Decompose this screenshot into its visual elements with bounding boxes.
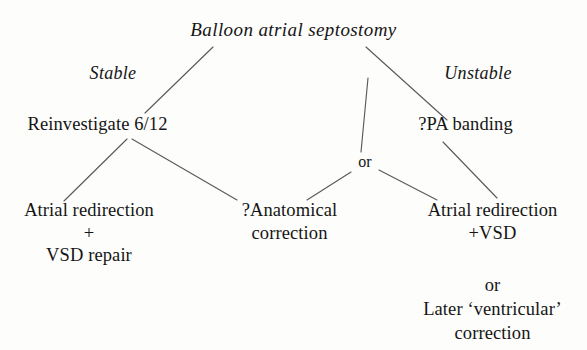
edge-reinvestigate-to-atrial-vsd-repair xyxy=(64,139,127,201)
branch-label-stable: Stable xyxy=(48,63,178,85)
edge-or-to-atrial-redirection-vsd xyxy=(379,170,437,200)
edge-reinvestigate-to-anatomical xyxy=(132,139,237,200)
branch-label-unstable: Unstable xyxy=(408,63,548,85)
node-anatomical-correction: ?Anatomical correction xyxy=(222,199,357,244)
edge-pa-banding-to-atrial-redirection-vsd xyxy=(443,142,497,198)
node-atrial-redirection-vsd-repair: Atrial redirection + VSD repair xyxy=(0,199,178,267)
edge-root-branch-to-or xyxy=(361,78,368,152)
node-pa-banding: ?PA banding xyxy=(383,113,548,136)
node-root-balloon-atrial-septostomy: Balloon atrial septostomy xyxy=(0,18,587,41)
decision-tree-diagram: Balloon atrial septostomy Stable Unstabl… xyxy=(0,0,587,350)
node-or-connector: or xyxy=(340,152,390,172)
node-atrial-redirection-plus-vsd: Atrial redirection +VSD xyxy=(398,199,587,244)
edge-or-to-anatomical xyxy=(307,172,351,200)
node-later-ventricular-correction: or Later ‘ventricular’ correction xyxy=(398,273,587,345)
node-reinvestigate: Reinvestigate 6/12 xyxy=(0,113,195,136)
